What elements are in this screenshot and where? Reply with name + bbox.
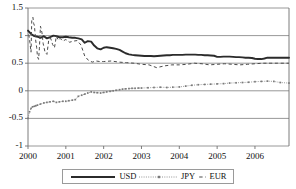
series-marker-jpy	[43, 102, 45, 104]
chart-figure: 1.510.50-0.5-1 2000200120022003200420052…	[0, 0, 296, 189]
series-marker-jpy	[122, 88, 124, 90]
series-marker-jpy	[81, 94, 83, 96]
series-marker-jpy	[267, 80, 269, 82]
series-marker-jpy	[223, 83, 225, 85]
series-marker-jpy	[153, 87, 155, 89]
series-marker-jpy	[93, 92, 95, 94]
series-marker-jpy	[32, 106, 34, 108]
series-marker-jpy	[248, 81, 250, 83]
series-marker-jpy	[34, 105, 36, 107]
series-line-eur	[29, 17, 289, 67]
series-marker-jpy	[40, 103, 42, 105]
series-marker-jpy	[103, 92, 105, 94]
series-marker-jpy	[74, 99, 76, 101]
series-marker-jpy	[288, 82, 290, 84]
x-tick-label: 2002	[84, 152, 124, 161]
series-marker-jpy	[131, 87, 133, 89]
series-marker-jpy	[172, 86, 174, 88]
series-marker-jpy	[62, 100, 64, 102]
series-marker-jpy	[59, 101, 61, 103]
x-tick-label: 2000	[8, 152, 48, 161]
series-marker-jpy	[138, 87, 140, 89]
series-marker-jpy	[87, 92, 89, 94]
series-marker-jpy	[185, 85, 187, 87]
series-marker-jpy	[68, 100, 70, 102]
y-tick-label: 0.5	[0, 58, 23, 67]
series-marker-jpy	[96, 92, 98, 94]
series-marker-jpy	[210, 83, 212, 85]
series-marker-jpy	[261, 81, 263, 83]
y-tick-label: -0.5	[0, 113, 23, 122]
series-marker-jpy	[30, 108, 32, 110]
series-marker-jpy	[106, 91, 108, 93]
series-marker-jpy	[29, 111, 31, 113]
series-marker-jpy	[46, 102, 48, 104]
y-tick-label: 1.5	[0, 3, 23, 12]
x-tick-label: 2004	[159, 152, 199, 161]
series-marker-jpy	[65, 100, 67, 102]
series-marker-jpy	[27, 118, 29, 120]
y-tick-label: 1	[0, 31, 23, 40]
series-marker-jpy	[204, 84, 206, 86]
series-marker-jpy	[100, 92, 102, 94]
series-line-usd	[28, 31, 289, 59]
legend-item-usd: USD	[117, 172, 139, 181]
series-marker-jpy	[52, 100, 54, 102]
series-marker-jpy	[229, 82, 231, 84]
series-marker-jpy	[119, 89, 121, 91]
series-marker-jpy	[115, 89, 117, 91]
series-marker-jpy	[35, 105, 37, 107]
series-marker-jpy	[77, 95, 79, 97]
series-marker-jpy	[71, 99, 73, 101]
x-tick-label: 2001	[46, 152, 86, 161]
series-marker-jpy	[141, 87, 143, 89]
series-marker-jpy	[147, 87, 149, 89]
legend-item-eur: EUR	[206, 172, 230, 181]
series-marker-jpy	[125, 88, 127, 90]
series-marker-jpy	[49, 101, 51, 103]
series-marker-jpy	[134, 87, 136, 89]
x-tick-label: 2006	[235, 152, 275, 161]
series-marker-jpy	[279, 82, 281, 84]
x-tick-label: 2003	[121, 152, 161, 161]
series-marker-jpy	[166, 87, 168, 89]
series-marker-jpy	[191, 84, 193, 86]
x-tick-label: 2005	[197, 152, 237, 161]
series-marker-jpy	[178, 86, 180, 88]
series-marker-jpy	[128, 88, 130, 90]
series-marker-jpy	[37, 104, 39, 106]
series-marker-jpy	[160, 86, 162, 88]
series-line-jpy	[28, 81, 289, 118]
series-marker-jpy	[109, 91, 111, 93]
series-marker-jpy	[197, 84, 199, 86]
series-marker-jpy	[112, 90, 114, 92]
chart-legend: USDJPYEUR	[62, 169, 234, 184]
legend-item-jpy: JPY	[177, 172, 199, 181]
series-marker-jpy	[90, 91, 92, 93]
series-marker-jpy	[254, 81, 256, 83]
series-marker-jpy	[242, 82, 244, 84]
series-marker-jpy	[56, 102, 58, 104]
y-tick-label: -1	[0, 141, 23, 150]
series-marker-jpy	[273, 81, 275, 83]
series-marker-jpy	[235, 82, 237, 84]
series-marker-jpy	[84, 93, 86, 95]
series-marker-jpy	[216, 83, 218, 85]
y-tick-label: 0	[0, 86, 23, 95]
